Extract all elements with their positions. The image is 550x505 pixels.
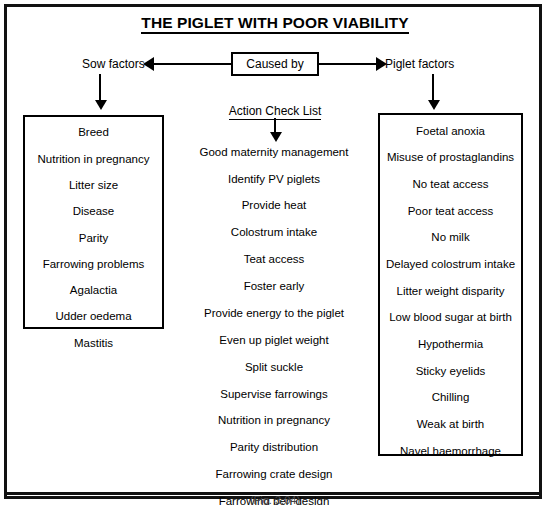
piglet-factor-item: Chilling [373, 385, 528, 412]
sow-factor-item: Mastitis [23, 330, 164, 356]
piglet-factor-item: Litter weight disparity [373, 278, 528, 305]
sow-factor-item: Breed [23, 120, 164, 146]
action-check-list-item: Supervise farrowings [178, 381, 370, 408]
figure-caption: (Fig. 3.04) [0, 494, 550, 505]
caused-by-label: Caused by [246, 57, 303, 71]
action-check-list-item: Even up piglet weight [178, 327, 370, 354]
action-check-list: Good maternity managementIdentify PV pig… [178, 139, 370, 505]
caused-by-node: Caused by [231, 52, 319, 76]
piglet-factor-item: No teat access [373, 171, 528, 198]
piglet-factor-item: Misuse of prostaglandins [373, 145, 528, 172]
piglet-factor-item: Foetal anoxia [373, 118, 528, 145]
sow-factor-item: Disease [23, 199, 164, 225]
sow-factors-list: BreedNutrition in pregnancyLitter sizeDi… [23, 120, 164, 357]
piglet-factor-item: Sticky eyelids [373, 358, 528, 385]
action-check-list-item: Good maternity management [178, 139, 370, 166]
action-check-list-item: Split suckle [178, 354, 370, 381]
action-check-list-item: Foster early [178, 273, 370, 300]
sow-factor-item: Litter size [23, 173, 164, 199]
arrow-right-icon [376, 57, 387, 71]
piglet-factor-item: Weak at birth [373, 412, 528, 439]
piglet-factor-item: Navel haemorrhage [373, 438, 528, 465]
sow-factors-label: Sow factors [82, 57, 145, 71]
piglet-factors-list: Foetal anoxiaMisuse of prostaglandinsNo … [373, 118, 528, 465]
piglet-factor-item: Delayed colostrum intake [373, 251, 528, 278]
figure-title-text: THE PIGLET WITH POOR VIABILITY [141, 14, 408, 34]
piglet-factor-item: Low blood sugar at birth [373, 305, 528, 332]
connector-line-left [152, 63, 232, 65]
action-check-list-item: Teat access [178, 247, 370, 274]
piglet-factor-item: Hypothermia [373, 332, 528, 359]
action-check-list-item: Farrowing crate design [178, 462, 370, 489]
action-check-list-item: Nutrition in pregnancy [178, 408, 370, 435]
action-check-list-item: Provide energy to the piglet [178, 300, 370, 327]
sow-factor-item: Parity [23, 225, 164, 251]
sow-factor-item: Farrowing problems [23, 251, 164, 277]
action-check-list-heading-text: Action Check List [229, 104, 322, 120]
figure-container: THE PIGLET WITH POOR VIABILITY Caused by… [0, 0, 550, 505]
piglet-factors-label: Piglet factors [385, 57, 454, 71]
connector-line-right [318, 63, 378, 65]
arrow-left-icon [143, 57, 154, 71]
figure-title: THE PIGLET WITH POOR VIABILITY [0, 14, 550, 32]
action-check-list-item: Identify PV piglets [178, 166, 370, 193]
sow-factor-item: Nutrition in pregnancy [23, 146, 164, 172]
action-check-list-item: Parity distribution [178, 435, 370, 462]
action-check-list-item: Colostrum intake [178, 220, 370, 247]
sow-factor-item: Agalactia [23, 278, 164, 304]
sow-factor-item: Udder oedema [23, 304, 164, 330]
piglet-factor-item: Poor teat access [373, 198, 528, 225]
piglet-factor-item: No milk [373, 225, 528, 252]
action-check-list-item: Provide heat [178, 193, 370, 220]
